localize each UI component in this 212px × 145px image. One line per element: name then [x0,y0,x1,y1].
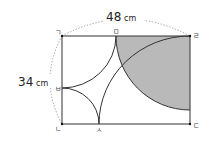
arc-center-nieun [62,88,99,124]
point-digeut-dot [189,123,191,125]
label-mieum: ㅁ [113,28,119,36]
height-unit: cm [36,79,48,88]
shaded-region [116,36,190,110]
label-siot: ㅅ [96,126,102,134]
label-rieul: ㄹ [193,32,199,40]
arc-center-giyeok [62,36,116,88]
label-giyeok: ㄱ [55,29,61,37]
geometry-figure: ㄱ ㅁ ㄹ ㅂ ㄴ ㅅ ㄷ 48 cm 34 cm [0,0,212,145]
point-giyeok-dot [61,35,63,37]
label-digeut: ㄷ [193,122,199,130]
point-rieul-dot [189,35,191,37]
width-unit: cm [124,14,136,23]
height-value: 34 [18,75,33,89]
width-value: 48 [106,10,121,24]
label-nieun: ㄴ [55,125,61,133]
point-nieun-dot [61,123,63,125]
